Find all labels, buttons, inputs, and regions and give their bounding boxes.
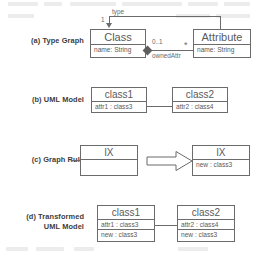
graph-rule-lhs-stub: [72, 160, 80, 161]
uml-model-class2-box[interactable]: class2 attr2 : class4: [172, 87, 228, 113]
transformed-class2-attribute-1: attr2 : class4: [178, 220, 234, 230]
type-edge-top-horizontal: [109, 16, 221, 17]
scan-artifact: [122, 2, 182, 6]
type-edge-multiplicity: 1: [101, 16, 105, 24]
transformed-class1-attribute-2: new : class3: [98, 230, 154, 240]
type-edge-arrowhead-icon: [106, 23, 112, 28]
row-label-line: (d) Transformed: [6, 212, 84, 222]
type-graph-class-box[interactable]: Class name: String: [90, 29, 146, 58]
scan-artifact: [8, 2, 38, 6]
type-edge-right-vertical: [220, 16, 221, 29]
transform-arrow-icon: [146, 150, 194, 172]
lhs-box-title: lX: [81, 146, 137, 160]
class-box-title: Class: [91, 30, 145, 45]
figure-uml-graph-transformation: (a) Type Graph (b) UML Model (c) Graph R…: [0, 0, 257, 258]
row-label-type-graph: (a) Type Graph: [6, 36, 84, 46]
transformed-class1-box[interactable]: class1 attr1 : class3 new : class3: [97, 205, 155, 242]
scan-artifact: [70, 2, 116, 6]
owned-attr-edge-label: ownedAttr: [152, 52, 181, 60]
rhs-box-title: lX: [193, 146, 249, 160]
transformed-class2-box[interactable]: class2 attr2 : class4 new : class3: [177, 205, 235, 242]
scan-artifact: [8, 14, 34, 18]
row-label-line: UML Model: [6, 222, 84, 232]
class1-title: class1: [92, 88, 146, 102]
graph-rule-rhs-box[interactable]: lX new : class3: [192, 145, 250, 176]
transformed-class2-title: class2: [178, 206, 234, 220]
class2-title: class2: [173, 88, 227, 102]
graph-rule-lhs-box[interactable]: lX: [80, 145, 138, 176]
transformed-class2-attribute-2: new : class3: [178, 230, 234, 240]
scan-artifact: [74, 247, 94, 251]
scan-artifact: [36, 247, 64, 251]
type-graph-attribute-box[interactable]: Attribute name: String: [193, 29, 251, 58]
transformed-model-association-edge: [155, 225, 177, 226]
uml-model-class1-box[interactable]: class1 attr1 : class3: [91, 87, 147, 113]
class-box-attribute: name: String: [91, 45, 145, 55]
rhs-box-attribute: new : class3: [193, 160, 249, 170]
class2-attribute: attr2 : class4: [173, 102, 227, 112]
class1-attribute: attr1 : class3: [92, 102, 146, 112]
row-label-uml-model: (b) UML Model: [6, 95, 84, 105]
row-label-line: (b) UML Model: [6, 95, 84, 105]
attribute-box-attribute: name: String: [194, 45, 250, 55]
transformed-class1-attribute-1: attr1 : class3: [98, 220, 154, 230]
transformed-class1-title: class1: [98, 206, 154, 220]
scan-artifact: [6, 247, 28, 251]
row-label-transformed-uml-model: (d) Transformed UML Model: [6, 212, 84, 231]
scan-artifact: [178, 247, 208, 251]
scan-artifact: [44, 2, 62, 6]
scan-artifact: [188, 2, 218, 6]
type-edge-label: type: [112, 8, 124, 16]
owned-attr-source-multiplicity: 0..1: [152, 38, 163, 46]
lhs-box-empty-compartment: [81, 160, 137, 189]
scan-artifact: [216, 14, 250, 18]
attribute-box-title: Attribute: [194, 30, 250, 45]
uml-model-association-edge: [147, 106, 172, 107]
row-label-line: (a) Type Graph: [6, 36, 84, 46]
owned-attr-edge: [150, 50, 193, 51]
scan-artifact: [224, 2, 250, 6]
owned-attr-target-multiplicity: *: [184, 42, 188, 48]
